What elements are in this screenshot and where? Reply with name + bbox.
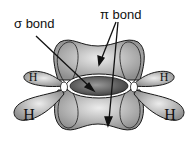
sigma-bond-label: σ bond [14,16,55,31]
h-label-top-left: H [29,70,38,84]
pi-bond-label: π bond [100,7,142,22]
sigma-bond-core [70,77,128,96]
carbon-left [61,82,68,92]
h-label-bottom-left: H [23,106,35,123]
h-label-bottom-right: H [164,106,176,123]
ethylene-orbital-diagram: H H H H σ bond π bond [0,0,196,148]
carbon-right [131,82,138,92]
h-label-top-right: H [160,70,169,84]
